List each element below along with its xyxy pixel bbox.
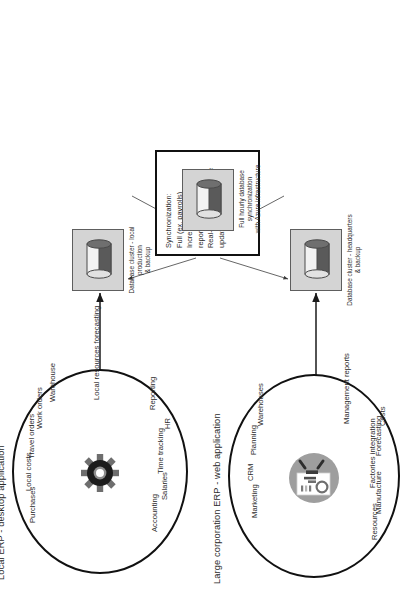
feature-local-resources-forecasting: Local resources forecasting — [92, 306, 101, 400]
feature-warehouse: Warehouse — [48, 363, 57, 402]
cluster-local-production — [72, 229, 124, 291]
feature-costs: Costs — [378, 406, 387, 426]
local-erp-title: Local ERP - desktop application — [0, 445, 6, 580]
feature-marketing: Marketing — [250, 484, 259, 518]
feature-accounting: Accounting — [150, 494, 159, 532]
gear-icon — [80, 453, 120, 493]
feature-management-reports: Management reports — [342, 353, 351, 424]
cluster-headquarters — [290, 229, 342, 291]
cluster-azure-sync-caption: Full hourly database synchronization wit… — [238, 150, 262, 248]
corp-erp-title: Large corporation ERP - web application — [212, 413, 222, 584]
feature-work-orders: Work orders — [35, 387, 44, 429]
feature-hr: HR — [163, 418, 172, 429]
cluster-headquarters-caption: Database cluster - headquarters & backup — [346, 212, 362, 308]
feature-reporting: Reporting — [148, 377, 157, 410]
feature-salaries: Salaries — [160, 472, 169, 500]
feature-crm: CRM — [246, 464, 255, 481]
feature-planning: Planning — [249, 425, 258, 455]
feature-time-tracking: Time tracking — [156, 428, 165, 474]
cluster-azure-sync — [182, 169, 234, 231]
feature-warehouses: Warehouses — [256, 383, 265, 426]
cluster-local-production-caption: Database cluster - local production & ba… — [128, 212, 152, 308]
feature-purchases: Purchases — [28, 487, 37, 523]
edge-sync-to-hq-cluster — [220, 258, 288, 279]
report-chart-icon — [288, 452, 340, 504]
diagram-canvas: Local ERP - desktop application — [0, 0, 410, 596]
